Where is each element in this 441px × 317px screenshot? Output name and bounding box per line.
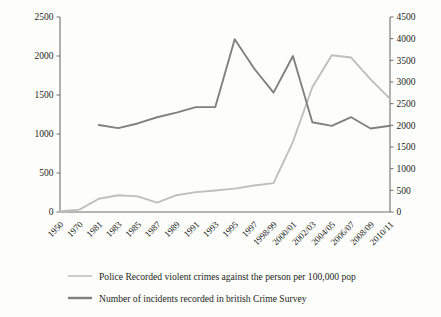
series-line-2: [99, 39, 390, 128]
right-axis-tick-label: 0: [397, 207, 402, 217]
series-line-1: [60, 55, 390, 211]
left-axis-tick-label: 1500: [35, 90, 54, 100]
right-axis-tick-label: 2000: [397, 121, 416, 131]
right-axis-tick-label: 1000: [397, 164, 416, 174]
x-axis-tick-label: 1950: [46, 219, 66, 239]
x-axis-tick-label: 1995: [220, 219, 240, 239]
x-axis-tick-label: 1991: [181, 219, 201, 239]
right-axis-tick-label: 1500: [397, 142, 416, 152]
left-axis-tick-label: 500: [39, 168, 54, 178]
right-axis-tick-label: 4500: [397, 12, 416, 22]
plot-area: 0500100015002000250005001000150020002500…: [35, 12, 416, 303]
line-chart: 0500100015002000250005001000150020002500…: [0, 0, 441, 317]
right-axis-tick-label: 3500: [397, 56, 416, 66]
x-axis-tick-label: 1981: [84, 219, 104, 239]
right-axis-tick-label: 4000: [397, 34, 416, 44]
right-axis-tick-label: 500: [397, 186, 412, 196]
left-axis-tick-label: 2000: [35, 51, 54, 61]
x-axis-tick-label: 1985: [123, 219, 143, 239]
x-axis-tick-label: 1970: [65, 219, 85, 239]
right-axis-tick-label: 3000: [397, 77, 416, 87]
right-axis-tick-label: 2500: [397, 99, 416, 109]
chart-container: 0500100015002000250005001000150020002500…: [0, 0, 441, 317]
x-axis-tick-label: 1993: [201, 219, 221, 239]
legend-label-1: Police Recorded violent crimes against t…: [99, 271, 356, 282]
x-axis-tick-label: 1987: [143, 219, 163, 239]
left-axis-tick-label: 0: [49, 207, 54, 217]
legend-label-2: Number of incidents recorded in british …: [99, 293, 307, 304]
left-axis-tick-label: 1000: [35, 129, 54, 139]
x-axis-tick-label: 1983: [104, 219, 124, 239]
left-axis-tick-label: 2500: [35, 12, 54, 22]
x-axis-tick-label: 1989: [162, 219, 182, 239]
